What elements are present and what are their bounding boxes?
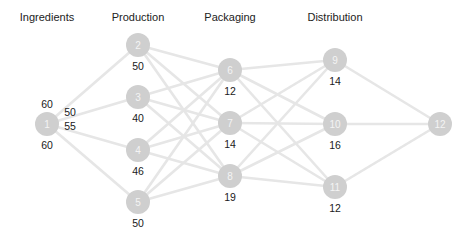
- node-4[interactable]: 4: [126, 138, 150, 162]
- node-7[interactable]: 7: [218, 111, 242, 135]
- node-3[interactable]: 3: [126, 85, 150, 109]
- node-6-value: 12: [224, 85, 236, 97]
- node-10[interactable]: 10: [323, 112, 347, 136]
- node-1[interactable]: 1: [35, 112, 59, 136]
- node-2[interactable]: 2: [126, 33, 150, 57]
- node-1-label-2: 55: [64, 120, 76, 132]
- node-1-label-0: 60: [41, 98, 53, 110]
- edge-9-12: [335, 60, 440, 124]
- node-2-value: 50: [132, 60, 144, 72]
- node-8[interactable]: 8: [218, 164, 242, 188]
- stage-title-production: Production: [112, 11, 165, 23]
- network-diagram: Ingredients Production Packaging Distrib…: [0, 0, 475, 237]
- node-11-value: 12: [329, 202, 341, 214]
- node-5[interactable]: 5: [126, 190, 150, 214]
- stage-title-packaging: Packaging: [204, 11, 255, 23]
- node-9[interactable]: 9: [323, 48, 347, 72]
- node-7-value: 14: [224, 138, 236, 150]
- node-1-label-3: 60: [41, 139, 53, 151]
- node-6[interactable]: 6: [218, 58, 242, 82]
- node-11[interactable]: 11: [323, 175, 347, 199]
- node-5-value: 50: [132, 217, 144, 229]
- node-10-value: 16: [329, 139, 341, 151]
- edge-1-2: [47, 45, 138, 124]
- edge-11-12: [335, 124, 440, 187]
- node-3-value: 40: [132, 112, 144, 124]
- node-12[interactable]: 12: [428, 112, 452, 136]
- node-8-value: 19: [224, 191, 236, 203]
- node-4-value: 46: [132, 165, 144, 177]
- stage-title-distribution: Distribution: [307, 11, 362, 23]
- stage-title-ingredients: Ingredients: [20, 11, 74, 23]
- node-1-label-1: 50: [64, 106, 76, 118]
- node-9-value: 14: [329, 75, 341, 87]
- edge-7-10: [230, 123, 335, 124]
